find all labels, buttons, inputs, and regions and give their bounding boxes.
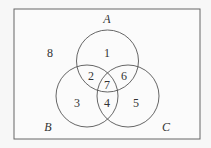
venn-diagram: A B C 8 1 2 6 7 3 4 5 [0, 0, 211, 148]
region-3: 3 [74, 96, 80, 110]
region-6: 6 [121, 69, 127, 83]
region-1: 1 [104, 46, 110, 60]
set-label-a: A [102, 12, 111, 26]
region-4: 4 [104, 96, 110, 110]
set-label-c: C [162, 120, 171, 134]
set-label-b: B [44, 120, 52, 134]
region-7: 7 [104, 78, 110, 92]
region-8: 8 [47, 46, 53, 60]
region-5: 5 [133, 96, 139, 110]
region-2: 2 [88, 69, 94, 83]
